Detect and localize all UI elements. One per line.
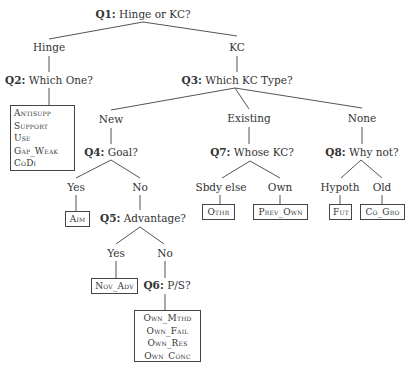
leaf-item: Gap_Weak (14, 145, 71, 158)
leaf-item: Antisupp (14, 107, 71, 120)
branch-old: Old (373, 181, 392, 194)
leaf-fut: Fut (329, 204, 352, 220)
question-q3: Q3: Which KC Type? (181, 74, 292, 87)
question-q8: Q8: Why not? (325, 146, 398, 159)
question-q1: Q1: Hinge or KC? (95, 8, 190, 21)
leaf-item: Support (14, 120, 71, 133)
branch-q4-yes: Yes (67, 181, 85, 194)
leaf-prev-own: Prev_Own (253, 204, 308, 220)
branch-q4-no: No (132, 181, 148, 194)
leaf-item: Use (14, 132, 71, 145)
leaf-own-categories: Own_Mthd Own_Fail Own_Res Own_Conc (134, 310, 201, 362)
question-q7: Q7: Whose KC? (210, 146, 294, 159)
branch-none: None (348, 112, 377, 125)
question-q5: Q5: Advantage? (100, 212, 186, 225)
question-q6: Q6: P/S? (143, 279, 190, 292)
branch-new: New (99, 113, 123, 126)
question-text: Which One? (29, 74, 93, 86)
leaf-item: CoDi (14, 157, 71, 170)
branch-q5-no: No (157, 247, 173, 260)
question-label: Q5: (100, 212, 120, 224)
question-label: Q2: (5, 74, 25, 86)
leaf-nov-adv: Nov_Adv (91, 278, 138, 294)
question-text: Hinge or KC? (119, 8, 190, 20)
question-q2: Q2: Which One? (5, 74, 93, 87)
question-text: Why not? (349, 146, 399, 158)
question-label: Q4: (84, 146, 104, 158)
question-label: Q8: (325, 146, 345, 158)
question-label: Q6: (143, 279, 163, 291)
leaf-item: Own_Conc (138, 350, 197, 363)
branch-kc: KC (229, 41, 245, 54)
branch-hinge: Hinge (33, 41, 65, 54)
question-q4: Q4: Goal? (84, 146, 138, 159)
question-label: Q7: (210, 146, 230, 158)
question-label: Q1: (95, 8, 115, 20)
leaf-co-gro: Co_Gro (360, 204, 405, 220)
leaf-item: Own_Res (138, 337, 197, 350)
leaf-item: Own_Fail (138, 325, 197, 338)
question-text: P/S? (167, 279, 190, 291)
question-text: Goal? (108, 146, 138, 158)
branch-existing: Existing (227, 112, 270, 125)
leaf-item: Own_Mthd (138, 312, 197, 325)
question-label: Q3: (181, 74, 201, 86)
decision-tree-diagram: Q1: Hinge or KC? Q2: Which One? Q3: Whic… (0, 0, 415, 373)
leaf-aim: Aim (65, 211, 90, 227)
branch-hypoth: Hypoth (320, 181, 359, 194)
branch-q5-yes: Yes (107, 247, 125, 260)
question-text: Whose KC? (234, 146, 294, 158)
branch-sbdy-else: Sbdy else (195, 181, 246, 194)
question-text: Which KC Type? (205, 74, 292, 86)
leaf-hinge-categories: Antisupp Support Use Gap_Weak CoDi (10, 105, 75, 171)
leaf-othr: Othr (202, 204, 235, 220)
branch-own: Own (268, 181, 292, 194)
question-text: Advantage? (124, 212, 186, 224)
